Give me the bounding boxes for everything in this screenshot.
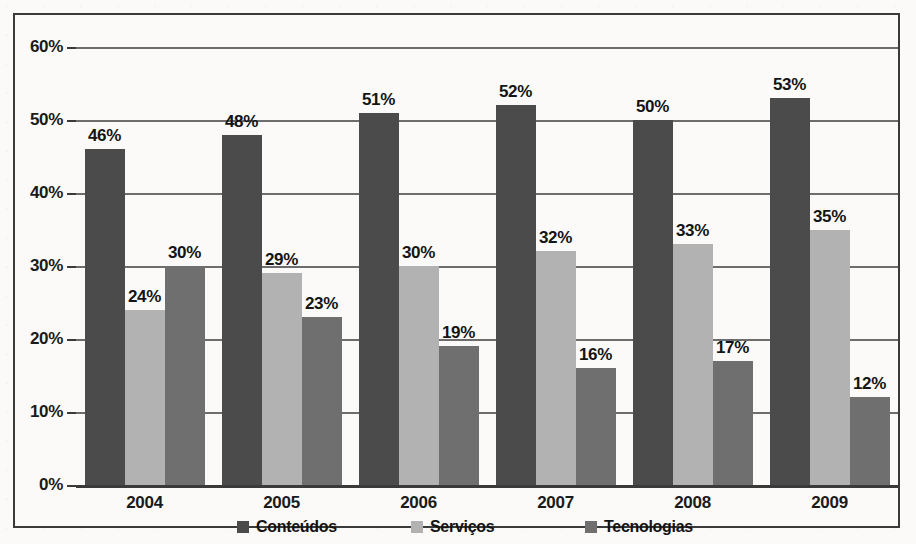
bar-value-label: 23% <box>305 294 338 314</box>
bar-2005-servios[interactable]: 29% <box>262 273 302 485</box>
legend-item-servios[interactable]: Serviços <box>411 518 494 536</box>
x-axis-label-2004: 2004 <box>126 493 163 513</box>
bar-fill <box>399 266 439 485</box>
bar-value-label: 17% <box>716 338 749 358</box>
bar-fill <box>222 135 262 485</box>
bar-fill <box>439 346 479 485</box>
y-axis-label-50%: 50% <box>30 110 63 130</box>
x-axis-label-2005: 2005 <box>263 493 300 513</box>
y-axis-label-40%: 40% <box>30 183 63 203</box>
bar-2004-servios[interactable]: 24% <box>125 310 165 485</box>
bar-value-label: 16% <box>579 345 612 365</box>
y-axis-label-30%: 30% <box>30 256 63 276</box>
bar-2006-contedos[interactable]: 51% <box>359 113 399 485</box>
chart-frame: 0%10%20%30%40%50%60% 46%24%30%200448%29%… <box>13 13 900 528</box>
bar-fill <box>673 244 713 485</box>
y-tick-0% <box>67 485 76 487</box>
bar-fill <box>810 230 850 486</box>
bar-fill <box>165 266 205 485</box>
bar-2008-tecnologias[interactable]: 17% <box>713 361 753 485</box>
bar-group-2007: 52%32%16%2007 <box>496 47 616 485</box>
bar-group-2004: 46%24%30%2004 <box>85 47 205 485</box>
bar-fill <box>713 361 753 485</box>
y-tick-60% <box>67 47 76 49</box>
bar-group-2008: 50%33%17%2008 <box>633 47 753 485</box>
bar-2007-contedos[interactable]: 52% <box>496 105 536 485</box>
bar-fill <box>850 397 890 485</box>
bar-group-2009: 53%35%12%2009 <box>770 47 890 485</box>
bar-value-label: 33% <box>676 221 709 241</box>
y-tick-10% <box>67 412 76 414</box>
bar-2009-contedos[interactable]: 53% <box>770 98 810 485</box>
legend-label: Serviços <box>430 518 494 536</box>
bar-2008-servios[interactable]: 33% <box>673 244 713 485</box>
legend-swatch-tecnologias-icon <box>585 521 597 533</box>
chart-legend: ConteúdosServiçosTecnologias <box>76 515 898 539</box>
y-axis-label-10%: 10% <box>30 402 63 422</box>
bar-value-label: 50% <box>636 97 669 117</box>
y-axis-label-60%: 60% <box>30 37 63 57</box>
bar-value-label: 19% <box>442 323 475 343</box>
bar-fill <box>302 317 342 485</box>
bar-fill <box>536 251 576 485</box>
bar-value-label: 35% <box>813 207 846 227</box>
bar-2006-tecnologias[interactable]: 19% <box>439 346 479 485</box>
bar-value-label: 12% <box>853 374 886 394</box>
legend-swatch-servicos-icon <box>411 521 423 533</box>
y-axis-label-20%: 20% <box>30 329 63 349</box>
bar-2009-tecnologias[interactable]: 12% <box>850 397 890 485</box>
bar-value-label: 52% <box>499 82 532 102</box>
bar-group-2005: 48%29%23%2005 <box>222 47 342 485</box>
bar-value-label: 29% <box>265 250 298 270</box>
axis-baseline <box>76 485 898 488</box>
x-axis-label-2006: 2006 <box>400 493 437 513</box>
legend-label: Tecnologias <box>604 518 693 536</box>
bar-2006-servios[interactable]: 30% <box>399 266 439 485</box>
bar-value-label: 53% <box>773 75 806 95</box>
bar-group-container: 46%24%30%200448%29%23%200551%30%19%20065… <box>76 47 898 485</box>
bar-2007-tecnologias[interactable]: 16% <box>576 368 616 485</box>
bar-fill <box>633 120 673 485</box>
bar-value-label: 24% <box>128 287 161 307</box>
y-tick-20% <box>67 339 76 341</box>
legend-item-tecnologias[interactable]: Tecnologias <box>585 518 693 536</box>
bar-2005-contedos[interactable]: 48% <box>222 135 262 485</box>
bar-2004-contedos[interactable]: 46% <box>85 149 125 485</box>
bar-2007-servios[interactable]: 32% <box>536 251 576 485</box>
bar-fill <box>359 113 399 485</box>
bar-fill <box>262 273 302 485</box>
bar-fill <box>770 98 810 485</box>
y-tick-30% <box>67 266 76 268</box>
y-axis-label-0%: 0% <box>39 475 63 495</box>
x-axis-label-2008: 2008 <box>674 493 711 513</box>
bar-value-label: 46% <box>88 126 121 146</box>
x-axis-label-2009: 2009 <box>811 493 848 513</box>
y-tick-40% <box>67 193 76 195</box>
bar-2009-servios[interactable]: 35% <box>810 230 850 486</box>
plot-area: 0%10%20%30%40%50%60% 46%24%30%200448%29%… <box>76 47 898 485</box>
legend-item-contedos[interactable]: Conteúdos <box>237 518 337 536</box>
bar-2005-tecnologias[interactable]: 23% <box>302 317 342 485</box>
y-tick-50% <box>67 120 76 122</box>
bar-fill <box>496 105 536 485</box>
legend-label: Conteúdos <box>256 518 337 536</box>
bar-value-label: 30% <box>168 243 201 263</box>
x-axis-label-2007: 2007 <box>537 493 574 513</box>
bar-fill <box>125 310 165 485</box>
bar-fill <box>576 368 616 485</box>
bar-fill <box>85 149 125 485</box>
legend-swatch-conteudos-icon <box>237 521 249 533</box>
bar-2008-contedos[interactable]: 50% <box>633 120 673 485</box>
bar-value-label: 32% <box>539 228 572 248</box>
bar-group-2006: 51%30%19%2006 <box>359 47 479 485</box>
bar-value-label: 51% <box>362 90 395 110</box>
bar-2004-tecnologias[interactable]: 30% <box>165 266 205 485</box>
bar-value-label: 30% <box>402 243 435 263</box>
bar-value-label: 48% <box>225 112 258 132</box>
